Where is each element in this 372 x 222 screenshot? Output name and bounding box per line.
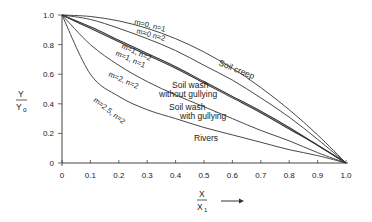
label-soil-wash-without-2: without gullying <box>158 89 217 99</box>
label-m25n2: m=2.5, n=2 <box>92 95 127 125</box>
x-tick-label: 0 <box>60 171 65 180</box>
y-label-den-sub: o <box>23 106 27 113</box>
plot-svg: 00.10.20.30.40.50.60.70.80.91.000.20.40.… <box>0 0 372 222</box>
label-soil-wash-with-2: with gullying <box>179 111 227 121</box>
label-soil-creep: Soil creep <box>217 58 256 82</box>
y-tick-label: 0.4 <box>43 100 55 109</box>
x-tick-label: 0.1 <box>85 171 97 180</box>
label-rivers: Rivers <box>194 133 218 143</box>
y-tick-label: 1.0 <box>43 11 55 20</box>
y-tick-label: 0 <box>50 159 55 168</box>
x-tick-label: 0.6 <box>227 171 239 180</box>
x-tick-label: 0.4 <box>170 171 182 180</box>
y-tick-label: 0.8 <box>43 41 55 50</box>
y-label-num: Y <box>18 89 24 99</box>
arrow-right-icon <box>221 199 244 204</box>
label-m2n2: m=2, n=2 <box>107 70 140 91</box>
x-label-den: X <box>197 202 203 212</box>
y-tick-label: 0.2 <box>43 129 55 138</box>
chart-container: 00.10.20.30.40.50.60.70.80.91.000.20.40.… <box>0 0 372 222</box>
x-tick-label: 0.8 <box>284 171 296 180</box>
x-tick-label: 0.2 <box>113 171 125 180</box>
x-tick-label: 0.9 <box>312 171 324 180</box>
x-label-den-sub: 1 <box>204 207 208 213</box>
x-tick-label: 0.7 <box>255 171 267 180</box>
y-tick-label: 0.6 <box>43 70 55 79</box>
x-tick-label: 1.0 <box>340 171 352 180</box>
y-label-den: Y <box>16 102 22 112</box>
x-tick-label: 0.5 <box>198 171 210 180</box>
x-label-num: X <box>199 189 205 199</box>
x-tick-label: 0.3 <box>142 171 154 180</box>
